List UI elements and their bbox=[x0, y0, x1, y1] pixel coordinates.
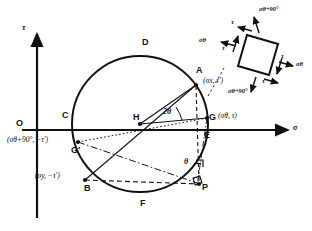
coord-G-text: (σθ, τ) bbox=[218, 111, 237, 120]
point-label-H: H bbox=[133, 113, 140, 122]
coord-B-text: (σy, −τ′) bbox=[35, 171, 60, 180]
coord-A-text: (σx, τ′) bbox=[203, 76, 223, 85]
coord-label-G: (σθ, τ) bbox=[218, 112, 237, 120]
element-label-shear-bottom: τ bbox=[262, 78, 265, 85]
point-label-E: E bbox=[204, 131, 210, 140]
point-label-F: F bbox=[140, 199, 146, 208]
element-label-shear-right: τ bbox=[281, 53, 284, 60]
angle-arc-two-theta bbox=[176, 107, 182, 120]
element-label-shear-left: τ bbox=[222, 45, 225, 52]
line-Gp-P bbox=[78, 142, 200, 184]
coord-label-A: (σx, τ′) bbox=[203, 77, 223, 85]
point-label-O: O bbox=[16, 119, 23, 128]
coord-Gp-text: (σθ+90°, −τ′) bbox=[7, 135, 48, 144]
coord-label-G-prime: (σθ+90°, −τ′) bbox=[7, 136, 48, 144]
point-label-G: G bbox=[209, 113, 216, 122]
angle-label-theta: θ bbox=[184, 158, 188, 166]
line-B-P-dashed bbox=[85, 180, 199, 184]
coord-label-B: (σy, −τ′) bbox=[35, 172, 60, 180]
mohrs-circle-figure: τ σ O D A C H G E G′ B F P (σx, τ′) (σθ,… bbox=[0, 0, 312, 231]
angle-label-two-theta: 2θ bbox=[163, 108, 171, 116]
point-label-G-prime: G′ bbox=[71, 146, 80, 155]
element-label-right-normal: σθ bbox=[296, 61, 303, 68]
element-label-top-normal: σθ+90° bbox=[259, 6, 279, 13]
point-label-B: B bbox=[84, 184, 91, 193]
point-label-P: P bbox=[202, 183, 208, 192]
line-A-E-dashed bbox=[196, 86, 199, 183]
element-label-left-normal: σθ bbox=[199, 37, 206, 44]
element-label-shear-top: τ bbox=[231, 19, 234, 26]
point-label-D: D bbox=[142, 38, 149, 47]
stress-element-square bbox=[238, 35, 278, 75]
axis-label-tau: τ bbox=[22, 24, 26, 32]
line-A-B bbox=[85, 85, 196, 180]
axis-label-sigma: σ bbox=[293, 124, 297, 132]
element-label-bottom-normal: σθ+90° bbox=[228, 88, 248, 95]
figure-canvas bbox=[0, 0, 312, 231]
radius-H-A bbox=[140, 85, 196, 124]
point-label-C: C bbox=[62, 111, 69, 120]
point-label-A: A bbox=[196, 66, 203, 75]
